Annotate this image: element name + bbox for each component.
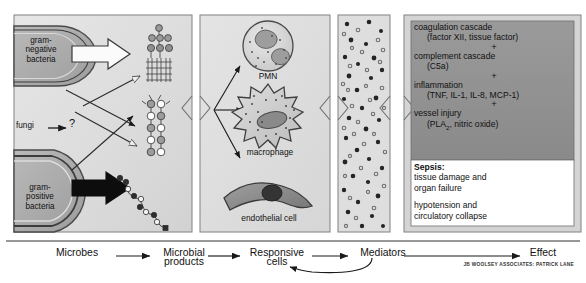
panel-mediators bbox=[338, 15, 390, 232]
cascade-item-1-head: complement cascade bbox=[414, 51, 574, 61]
credit-text: JB WOOLSEY ASSOCIATES: PATRICK LANE bbox=[463, 262, 574, 267]
gram-negative-label-line3: bacteria bbox=[16, 55, 66, 64]
sepsis-line2: organ failure bbox=[414, 183, 574, 193]
sepsis-line3: hypotension and bbox=[414, 200, 574, 210]
axis-step-4-line1: Effect bbox=[512, 248, 574, 257]
gram-negative-label-line2: negative bbox=[16, 45, 66, 54]
plus-2: + bbox=[414, 100, 574, 108]
fungi-question-mark: ? bbox=[69, 119, 75, 129]
panel-responsive-cells: PMN macrophage bbox=[200, 15, 330, 232]
cascade-item-3-head: vessel injury bbox=[414, 108, 574, 118]
plus-0: + bbox=[414, 43, 574, 51]
pla2-post: , nitric oxide) bbox=[450, 119, 499, 129]
gram-positive-label-line2: positive bbox=[16, 192, 64, 201]
endothelial-cell-label: endothelial cell bbox=[241, 214, 296, 223]
axis-step-1-line2: products bbox=[146, 257, 222, 266]
pmn-cell: PMN bbox=[243, 21, 293, 85]
gram-positive-label-line1: gram- bbox=[16, 183, 64, 192]
macrophage-label: macrophage bbox=[247, 148, 294, 157]
sepsis-pathogenesis-diagram: gram- negative bacteria gram- positive b… bbox=[0, 0, 586, 283]
sepsis-heading: Sepsis: bbox=[414, 162, 574, 172]
axis-step-0-line1: Microbes bbox=[42, 248, 112, 257]
fungi-group: fungi ? bbox=[16, 119, 83, 137]
cascade-item-2-head: inflammation bbox=[414, 80, 574, 90]
gram-negative-label-line1: gram- bbox=[16, 36, 66, 45]
sepsis-line1: tissue damage and bbox=[414, 172, 574, 182]
pla2-pre: (PLA bbox=[427, 119, 446, 129]
panel-effect: coagulation cascade (factor XII, tissue … bbox=[404, 15, 581, 232]
sepsis-line4: circulatory collapse bbox=[414, 211, 574, 221]
fungi-label: fungi bbox=[16, 121, 34, 130]
cascade-item-3-detail: (PLA2, nitric oxide) bbox=[414, 119, 574, 133]
plus-1: + bbox=[414, 72, 574, 80]
panel-microbes-and-products: gram- negative bacteria gram- positive b… bbox=[14, 15, 192, 232]
gram-positive-label-line3: bacteria bbox=[16, 202, 64, 211]
cascade-item-0-head: coagulation cascade bbox=[414, 22, 574, 32]
flow-axis: Microbes Microbial products Responsive c… bbox=[6, 241, 580, 278]
pmn-label: PMN bbox=[259, 72, 278, 81]
axis-step-2-line2: cells bbox=[236, 257, 318, 266]
